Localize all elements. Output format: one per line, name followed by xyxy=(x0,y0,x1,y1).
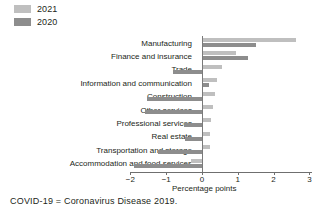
x-tick-label: 0 xyxy=(192,176,212,184)
x-axis-line xyxy=(131,172,312,173)
legend-label-2021: 2021 xyxy=(37,5,57,14)
zero-baseline xyxy=(202,36,203,172)
legend-swatch-2021 xyxy=(14,5,31,13)
x-tick-label: −2 xyxy=(120,176,140,184)
bar-2020-manufacturing xyxy=(202,43,256,47)
bar-2021-real-estate xyxy=(202,132,210,136)
bar-2020-accommodation-and-food-services xyxy=(134,164,202,168)
bar-2020-finance-and-insurance xyxy=(202,56,248,60)
figure-footnote: COVID-19 = Coronavirus Disease 2019. xyxy=(10,196,178,206)
legend-label-2020: 2020 xyxy=(37,18,57,27)
bar-2020-information-and-communication xyxy=(202,83,209,87)
bar-2020-real-estate xyxy=(185,137,202,141)
bar-2021-construction xyxy=(202,92,215,96)
plot-area: ManufacturingFinance and insuranceTradeI… xyxy=(0,36,322,176)
bar-2020-transportation-and-storage xyxy=(158,150,202,154)
x-tick-label: 3 xyxy=(299,176,319,184)
x-tick-label: −1 xyxy=(156,176,176,184)
bar-2021-transportation-and-storage xyxy=(202,145,210,149)
bar-2020-trade xyxy=(173,70,202,74)
legend-swatch-2020 xyxy=(14,18,31,26)
chart-legend: 2021 2020 xyxy=(14,3,57,29)
legend-item-2020: 2020 xyxy=(14,16,57,28)
bar-2021-information-and-communication xyxy=(202,78,217,82)
x-tick-label: 2 xyxy=(264,176,284,184)
bar-2020-construction xyxy=(147,97,202,101)
bar-2021-manufacturing xyxy=(202,38,296,42)
bar-2021-finance-and-insurance xyxy=(202,51,236,55)
bar-2020-other-services xyxy=(145,110,202,114)
x-tick-label: 1 xyxy=(228,176,248,184)
bar-2021-other-services xyxy=(202,105,213,109)
x-axis-label: Percentage points xyxy=(172,185,237,193)
legend-item-2021: 2021 xyxy=(14,3,57,15)
figure-container: 2021 2020 ManufacturingFinance and insur… xyxy=(0,0,322,211)
bar-2021-accommodation-and-food-services xyxy=(191,159,202,163)
bar-series-group xyxy=(0,36,322,172)
bar-2021-trade xyxy=(202,65,222,69)
bar-2021-professional-services xyxy=(202,118,211,122)
bar-2020-professional-services xyxy=(184,123,202,127)
